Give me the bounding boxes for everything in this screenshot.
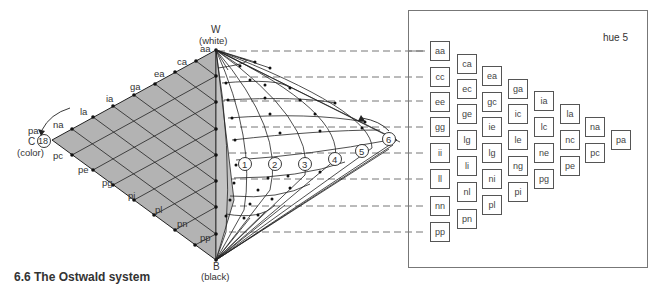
edge-label-na: na <box>53 120 64 130</box>
swatch: nl <box>457 182 477 202</box>
hue-cone-mesh <box>216 50 400 260</box>
edge-label-ga: ga <box>130 82 141 92</box>
edge-label-pl: pl <box>155 205 162 215</box>
hue-circle-2: 2 <box>272 160 277 170</box>
edge-label-ea: ea <box>154 69 165 79</box>
swatch: li <box>457 156 477 176</box>
edge-label-la: la <box>80 107 87 117</box>
swatch: pc <box>585 143 605 163</box>
edge-label-pg: pg <box>102 178 113 188</box>
swatch: ia <box>534 91 554 111</box>
swatch: pe <box>560 156 580 176</box>
swatch: ga <box>508 79 528 99</box>
panel-title: hue 5 <box>603 33 628 43</box>
swatch: nc <box>560 130 580 150</box>
apex-color-desc: (color) <box>17 148 44 158</box>
apex-white-letter: W <box>211 25 220 35</box>
edge-label-pe: pe <box>78 165 89 175</box>
edge-label-pn: pn <box>177 219 188 229</box>
swatch: pg <box>534 169 554 189</box>
hue-circle-4: 4 <box>332 155 337 165</box>
edge-label-pp: pp <box>200 233 211 243</box>
edge-label-ia: ia <box>106 94 113 104</box>
edge-label-pi: pi <box>128 191 135 201</box>
swatch: nn <box>430 196 450 216</box>
swatch: pi <box>508 182 528 202</box>
swatch: pp <box>430 222 450 242</box>
swatch: ea <box>482 66 502 86</box>
hue-number-18: 18 <box>38 137 48 146</box>
swatch: ec <box>457 79 477 99</box>
hue-circle-6: 6 <box>386 135 391 145</box>
swatch: ne <box>534 143 554 163</box>
apex-black-desc: (black) <box>201 272 230 282</box>
swatch: ni <box>482 169 502 189</box>
swatch: pl <box>482 195 502 215</box>
swatch: pa <box>611 130 631 150</box>
swatch: aa <box>430 41 450 61</box>
swatch: lg <box>482 143 502 163</box>
swatch: gg <box>430 117 450 137</box>
swatch: lg <box>457 130 477 150</box>
edge-label-pc: pc <box>53 151 63 161</box>
swatch: ii <box>430 143 450 163</box>
edge-label-pa: pa <box>28 126 39 136</box>
swatch: cc <box>430 67 450 87</box>
edge-label-ca: ca <box>177 57 187 67</box>
figure-caption: 6.6 The Ostwald system <box>14 270 150 284</box>
swatch: ge <box>457 104 477 124</box>
apex-color-letter: C <box>28 137 35 147</box>
swatch: ee <box>430 92 450 112</box>
swatch: gc <box>482 92 502 112</box>
swatch: la <box>560 104 580 124</box>
hue-circle-5: 5 <box>359 147 364 157</box>
swatch: pn <box>457 209 477 229</box>
swatch: ca <box>457 54 477 74</box>
swatch: ie <box>482 117 502 137</box>
swatch: lc <box>534 117 554 137</box>
hue-circle-1: 1 <box>242 160 247 170</box>
swatch: ng <box>508 156 528 176</box>
hue-circle-3: 3 <box>302 160 307 170</box>
swatch: le <box>508 130 528 150</box>
swatch: ll <box>430 169 450 189</box>
swatch: na <box>585 117 605 137</box>
swatch: ic <box>508 104 528 124</box>
edge-label-aa: aa <box>200 44 211 54</box>
